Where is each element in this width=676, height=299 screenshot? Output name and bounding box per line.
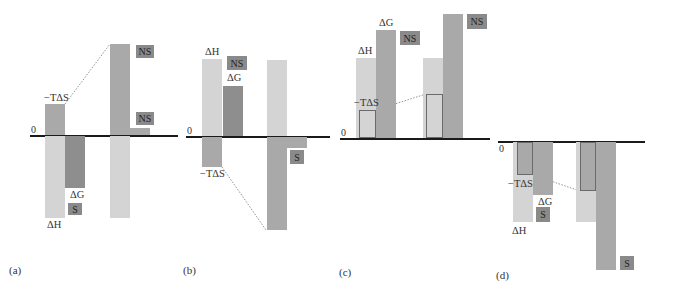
s-tag: S	[68, 203, 82, 215]
ns-small-bar	[130, 128, 150, 135]
delta-g-label: ΔG	[227, 72, 241, 83]
ns-tag: NS	[227, 56, 247, 70]
delta-g-bar	[65, 136, 85, 188]
ns-tag: NS	[400, 31, 420, 45]
zero-label: 0	[499, 143, 504, 154]
delta-h-bar	[45, 136, 65, 218]
ns-light-bar	[110, 136, 130, 218]
panel-caption: (d)	[496, 269, 509, 281]
connector-lines	[0, 0, 676, 299]
ns-tall-bar	[110, 44, 130, 135]
zero-axis	[340, 138, 490, 140]
zero-label: 0	[341, 127, 346, 138]
panel-caption: (c)	[339, 266, 351, 278]
minus-tds-box	[517, 142, 533, 175]
zero-label: 0	[31, 124, 36, 135]
s-tag: S	[536, 207, 550, 222]
minus-tds-bar	[45, 104, 65, 135]
delta-g-bar	[533, 142, 553, 195]
delta-g-label: ΔG	[379, 17, 393, 28]
delta-h-label: ΔH	[512, 225, 526, 236]
panel-caption: (b)	[183, 264, 196, 276]
minus-tds-label: −TΔS	[508, 178, 533, 189]
light-bar	[267, 60, 287, 136]
tall-down-bar	[596, 142, 616, 270]
minus-tds-bar	[202, 137, 222, 167]
inner-box	[580, 142, 596, 191]
tall-bar	[443, 14, 463, 138]
s-tag: S	[290, 150, 304, 164]
delta-h-label: ΔH	[358, 45, 372, 56]
zero-label: 0	[187, 125, 192, 136]
delta-g-label: ΔG	[538, 196, 552, 207]
minus-tds-label: −TΔS	[44, 92, 69, 103]
minus-tds-label: −TΔS	[354, 97, 379, 108]
panel-caption: (a)	[9, 264, 21, 276]
ns-tag: NS	[136, 112, 154, 125]
delta-g-label: ΔG	[70, 189, 84, 200]
minus-tds-box	[359, 110, 376, 138]
ns-tag: NS	[467, 14, 487, 29]
small-down-bar	[287, 137, 307, 148]
ns-tag: NS	[136, 45, 154, 58]
tall-down-bar	[267, 137, 287, 230]
delta-g-bar	[223, 86, 243, 136]
s-tag: S	[620, 256, 634, 270]
delta-h-label: ΔH	[205, 46, 219, 57]
inner-box	[426, 94, 443, 138]
delta-h-bar	[202, 59, 222, 136]
delta-g-bar	[376, 30, 396, 138]
minus-tds-label: −TΔS	[200, 168, 225, 179]
delta-h-label: ΔH	[47, 219, 61, 230]
